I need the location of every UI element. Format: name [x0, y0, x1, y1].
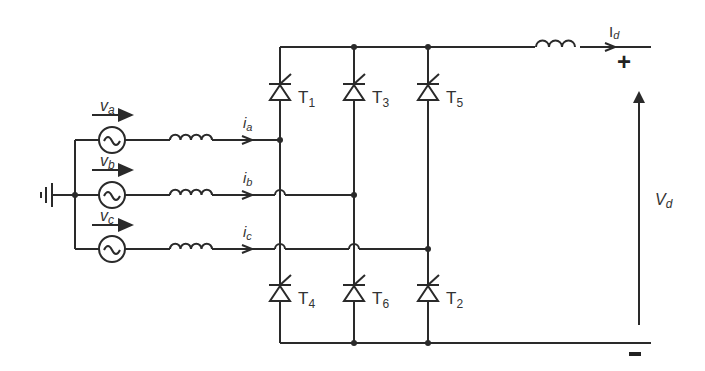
label-ic: ic [243, 223, 252, 242]
voltage-arrow-icon [118, 163, 134, 177]
label-t6: T6 [372, 289, 389, 311]
voltage-arrow-icon [118, 108, 134, 122]
label-t3: T3 [372, 88, 389, 110]
phase-c [75, 218, 431, 262]
ground-icon [41, 183, 75, 207]
label-t4: T4 [298, 289, 315, 311]
label-t5: T5 [446, 88, 463, 110]
label-id: Id [609, 23, 620, 41]
label-ia: ia [243, 114, 252, 133]
rectifier-circuit: va vb vc ia ib ic T1 T3 T5 T4 T6 T2 Id V… [0, 0, 705, 371]
phase-b [75, 163, 357, 208]
label-t1: T1 [298, 88, 315, 110]
arrow-up-icon [633, 91, 645, 103]
voltage-arrow-icon [118, 218, 134, 232]
minus-sign [629, 352, 641, 356]
plus-sign: + [617, 48, 631, 75]
label-t2: T2 [446, 289, 463, 311]
inductor-icon [170, 190, 212, 195]
label-ib: ib [243, 169, 252, 188]
inductor-icon [170, 244, 212, 249]
label-vd: Vd [655, 191, 673, 211]
inductor-icon [170, 135, 212, 140]
